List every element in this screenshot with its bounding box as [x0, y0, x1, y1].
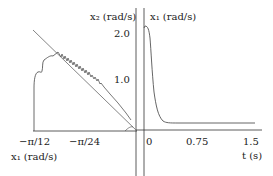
- left-y-axis-label: x₂ (rad/s): [90, 12, 136, 22]
- right-x-tick-0: 0: [146, 137, 152, 147]
- left-y-tick-1: 1.0: [114, 75, 130, 85]
- right-x-tick-15: 1.5: [243, 137, 259, 147]
- left-x-axis-label: x₁ (rad/s): [11, 152, 57, 162]
- approach-trajectory: [34, 52, 58, 131]
- chart-canvas: [0, 0, 273, 176]
- left-y-tick-2: 2.0: [114, 29, 130, 39]
- final-approach-arc: [125, 127, 133, 131]
- chattering-trajectory: [58, 52, 131, 120]
- right-y-axis-label: x₁ (rad/s): [150, 12, 196, 22]
- x1-response-curve: [144, 26, 255, 123]
- right-x-axis-label: t (s): [242, 151, 262, 161]
- left-x-tick-pi12: −π/12: [19, 137, 50, 147]
- right-x-tick-075: 0.75: [186, 137, 208, 147]
- left-x-tick-pi24: −π/24: [69, 137, 100, 147]
